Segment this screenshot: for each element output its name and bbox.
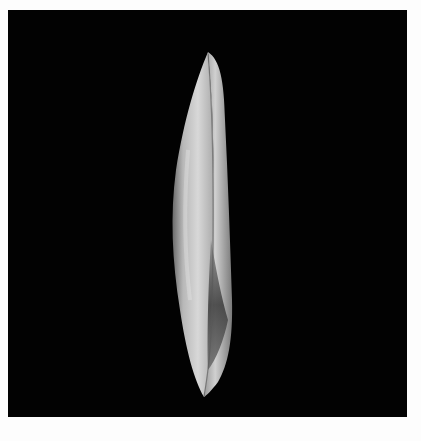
shell-illustration: [8, 10, 407, 417]
photo-frame: [8, 10, 407, 417]
